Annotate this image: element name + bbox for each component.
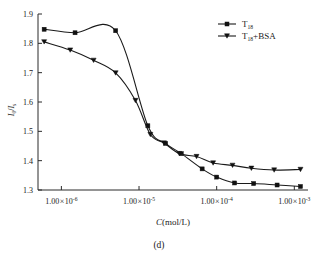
svg-text:I0/Is: I0/Is: [7, 104, 17, 118]
data-point-square: [42, 27, 46, 31]
figure-caption: (d): [153, 240, 164, 251]
legend-item-t18: T18: [218, 19, 253, 30]
x-tick-label: 1.00×10-6: [45, 196, 77, 206]
chart-svg: 1.31.41.51.61.71.81.9 1.00×10-61.00×10-5…: [0, 0, 318, 262]
data-point-triangle: [133, 98, 138, 102]
y-tick-label: 1.3: [23, 186, 33, 195]
series-t18-bsa: [42, 40, 303, 173]
y-tick-label: 1.9: [23, 10, 33, 19]
data-point-triangle: [91, 58, 96, 62]
series-line: [44, 24, 300, 186]
data-point-square: [73, 31, 77, 35]
data-point-square: [215, 175, 219, 179]
x-axis-ticks: [61, 186, 294, 190]
data-point-square: [200, 167, 204, 171]
legend-item-t18-bsa: T18+BSA: [218, 31, 276, 42]
y-axis-title-denominator-sub: s: [11, 104, 17, 106]
y-tick-label: 1.4: [23, 157, 33, 166]
x-tick-label: 1.00×10-3: [278, 196, 310, 206]
y-tick-label: 1.5: [23, 127, 33, 136]
data-point-square: [252, 182, 256, 186]
series-t18: [42, 24, 302, 188]
x-axis-tick-labels: 1.00×10-61.00×10-51.00×10-41.00×10-3: [45, 196, 310, 206]
y-axis-ticks: [38, 14, 42, 190]
data-point-square: [275, 183, 279, 187]
legend-label: T18+BSA: [242, 31, 276, 42]
figure-container: 1.31.41.51.61.71.81.9 1.00×10-61.00×10-5…: [0, 0, 318, 262]
data-point-square: [298, 184, 302, 188]
chart-legend: T18T18+BSA: [218, 19, 276, 42]
series-line: [44, 42, 300, 170]
series-layer: [42, 24, 303, 188]
data-point-square: [233, 181, 237, 185]
data-point-triangle: [68, 48, 73, 52]
x-tick-label: 1.00×10-5: [123, 196, 155, 206]
data-point-square: [225, 22, 229, 26]
y-tick-label: 1.8: [23, 39, 33, 48]
x-tick-label: 1.00×10-4: [201, 196, 233, 206]
y-tick-label: 1.7: [23, 69, 33, 78]
y-tick-label: 1.6: [23, 98, 33, 107]
legend-label: T18: [242, 19, 253, 30]
x-axis-title: C(mol/L): [156, 217, 190, 227]
y-axis-tick-labels: 1.31.41.51.61.71.81.9: [23, 10, 33, 195]
data-point-square: [114, 29, 118, 33]
y-axis-title: I0/Is: [7, 104, 17, 118]
